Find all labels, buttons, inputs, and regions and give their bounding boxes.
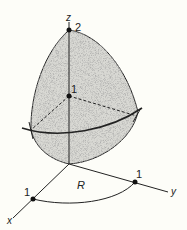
point-y-1: [133, 180, 138, 185]
region-label: R: [77, 180, 85, 191]
z-mid-label: 1: [71, 84, 77, 95]
x-one-label: 1: [24, 187, 30, 198]
point-z-2: [67, 28, 72, 33]
x-axis: [13, 164, 69, 218]
y-one-label: 1: [136, 169, 142, 180]
z-top-label: 2: [75, 22, 81, 33]
x-axis-label: x: [7, 216, 12, 226]
y-axis-label: y: [171, 187, 176, 197]
z-axis-label: z: [66, 13, 71, 23]
solid-surface: [31, 30, 138, 164]
diagram-canvas: z 2 1 1 1 R x y: [0, 0, 187, 230]
point-x-1: [31, 197, 36, 202]
